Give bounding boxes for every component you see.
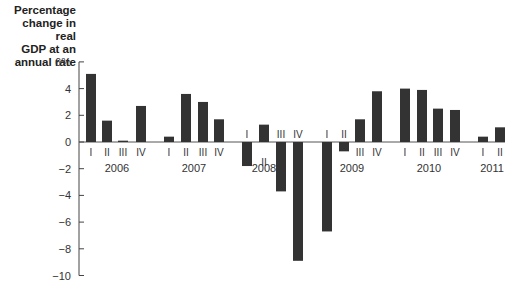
bar (372, 91, 382, 142)
y-tick-label: −2 (58, 163, 71, 175)
quarter-label: III (356, 147, 364, 158)
year-label: 2006 (105, 162, 129, 174)
quarter-label: I (90, 147, 93, 158)
bar (136, 106, 146, 142)
quarter-label: IV (136, 147, 146, 158)
bar (417, 90, 427, 142)
bar (86, 74, 96, 142)
quarter-label: IV (293, 129, 303, 140)
quarter-label: II (341, 129, 347, 140)
bar (339, 142, 349, 151)
y-tick-label: −6 (58, 216, 71, 228)
gdp-bar-chart: 6%420−2−4−6−8−10IIIIIIIVIIIIIIIVIIIIIIIV… (0, 0, 511, 297)
bar (495, 127, 505, 142)
year-label: 2008 (252, 162, 276, 174)
quarter-label: II (183, 147, 189, 158)
quarter-label: IV (372, 147, 382, 158)
year-label: 2009 (340, 162, 364, 174)
year-label: 2007 (182, 162, 206, 174)
bar (322, 142, 332, 231)
bar (259, 125, 269, 142)
year-label: 2011 (480, 162, 504, 174)
y-tick-label: −4 (58, 189, 71, 201)
bar (293, 142, 303, 261)
bar (433, 109, 443, 142)
y-tick-label: −10 (52, 270, 71, 282)
year-label: 2010 (417, 162, 441, 174)
quarter-label: III (277, 129, 285, 140)
y-tick-label: 2 (65, 109, 71, 121)
bar (118, 141, 128, 142)
bar (400, 89, 410, 142)
bar (102, 121, 112, 142)
y-tick-label: 0 (65, 136, 71, 148)
bar (214, 119, 224, 142)
bar (242, 142, 252, 166)
quarter-label: I (404, 147, 407, 158)
y-tick-label: −8 (58, 243, 71, 255)
quarter-label: I (326, 129, 329, 140)
bar (355, 119, 365, 142)
quarter-label: III (434, 147, 442, 158)
y-tick-label: 4 (65, 83, 71, 95)
quarter-label: III (199, 147, 207, 158)
bar (164, 137, 174, 142)
quarter-label: I (168, 147, 171, 158)
quarter-label: I (246, 129, 249, 140)
bar (478, 137, 488, 142)
bar (198, 102, 208, 142)
quarter-label: II (419, 147, 425, 158)
quarter-label: I (482, 147, 485, 158)
bar (450, 110, 460, 142)
quarter-label: IV (214, 147, 224, 158)
quarter-label: II (497, 147, 503, 158)
quarter-label: III (119, 147, 127, 158)
bar (276, 142, 286, 191)
quarter-label: II (104, 147, 110, 158)
y-tick-label: 6% (55, 56, 71, 68)
quarter-label: IV (450, 147, 460, 158)
bar (181, 94, 191, 142)
